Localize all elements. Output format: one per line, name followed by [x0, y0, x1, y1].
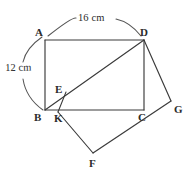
top-dimension-arc	[48, 18, 76, 36]
diagonal-BD	[45, 40, 144, 110]
vertex-label-G: G	[174, 104, 183, 115]
vertex-label-E: E	[55, 84, 63, 95]
segment-GF	[93, 101, 171, 153]
figure-canvas	[0, 0, 188, 175]
vertex-label-C: C	[138, 112, 146, 123]
vertex-label-K: K	[54, 113, 63, 124]
top-dimension-arc-right	[116, 19, 141, 36]
vertex-label-F: F	[89, 158, 96, 169]
segment-FK	[58, 112, 93, 153]
dimension-label-left: 12 cm	[5, 63, 32, 74]
dimension-label-top: 16 cm	[78, 13, 104, 24]
vertex-label-B: B	[34, 112, 42, 123]
vertex-label-D: D	[140, 27, 148, 38]
segment-KE	[58, 92, 66, 112]
geometry-figure: A D B C E K G F 16 cm 12 cm	[0, 0, 188, 175]
vertex-label-A: A	[35, 27, 43, 38]
left-dimension-arc-upper	[23, 37, 42, 62]
segment-DG	[144, 40, 171, 101]
left-dimension-arc-lower	[23, 79, 43, 110]
